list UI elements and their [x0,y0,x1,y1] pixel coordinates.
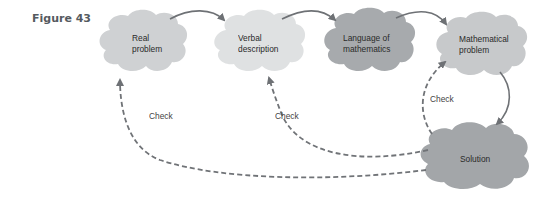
node-label-line2: description [238,43,278,54]
node-language-of-mathematics: Language of mathematics [343,32,390,54]
node-mathematical-problem: Mathematical problem [459,33,509,55]
node-label-line1: Verbal [238,32,278,43]
check-label-math: Check [430,93,454,104]
arrow-math-to-solution [497,72,509,124]
check-label-real: Check [149,110,173,121]
node-label-line2: mathematics [343,43,390,54]
node-label-line1: Real [132,32,162,43]
node-label-line1: Solution [460,153,490,164]
check-label-verbal: Check [275,110,299,121]
node-solution: Solution [460,153,490,164]
node-verbal-description: Verbal description [238,32,278,54]
node-label-line1: Language of [343,32,390,43]
node-real-problem: Real problem [132,32,162,54]
check-arrow-to-real [120,80,426,177]
arrow-real-to-verbal [170,11,224,20]
node-label-line1: Mathematical [459,33,509,44]
flow-diagram [0,0,547,198]
node-label-line2: problem [459,44,509,55]
node-label-line2: problem [132,43,162,54]
